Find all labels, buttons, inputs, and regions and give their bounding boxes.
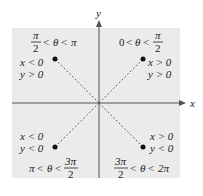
condition-y: y < 0 [19,142,44,154]
y-axis-arrow-icon [96,20,102,27]
fraction-numerator: 3π [114,155,127,167]
condition-y: y > 0 [19,68,44,80]
lt-sign: < [61,36,67,48]
point-quadrant-2 [53,57,58,62]
fraction-denominator: 2 [118,168,124,180]
lt-sign: < [43,36,49,48]
fraction-denominator: 2 [33,42,39,54]
lt-sign: < [148,162,154,174]
lt-sign: < [55,162,61,174]
fraction-numerator: 3π [64,155,77,167]
theta-symbol: θ [53,36,59,48]
theta-symbol: θ [47,162,53,174]
fraction-denominator: 2 [68,168,74,180]
fraction-denominator: 2 [155,42,161,54]
fraction-numerator: π [33,29,39,41]
lt-sign: < [143,36,149,48]
conditions-quadrant-2: x < 0 y > 0 [19,56,44,80]
x-axis-arrow-icon [179,100,186,106]
upper-bound: 2π [158,162,170,174]
upper-bound: π [71,36,77,48]
fraction-numerator: π [155,29,161,41]
theta-symbol: θ [135,36,141,48]
condition-y: y < 0 [149,142,174,154]
theta-symbol: θ [140,162,146,174]
lt-sign: < [37,162,43,174]
condition-x: x > 0 [149,130,174,142]
lt-sign: < [130,162,136,174]
conditions-quadrant-4: x > 0 y < 0 [149,130,174,154]
quadrant-diagram: x y π 2 < θ < π x < 0 y > 0 0 < θ < π 2 … [0,0,203,196]
point-quadrant-3 [53,145,58,150]
condition-x: x < 0 [19,130,44,142]
lt-sign: < [126,36,132,48]
condition-x: x < 0 [19,56,44,68]
point-quadrant-4 [141,145,146,150]
lower-bound: 0 [119,36,125,48]
y-axis-label: y [95,7,101,19]
conditions-quadrant-1: x > 0 y > 0 [147,56,172,80]
x-axis-label: x [189,97,195,109]
conditions-quadrant-3: x < 0 y < 0 [19,130,44,154]
condition-y: y > 0 [147,68,172,80]
point-quadrant-1 [141,57,146,62]
condition-x: x > 0 [147,56,172,68]
lower-bound: π [29,162,35,174]
